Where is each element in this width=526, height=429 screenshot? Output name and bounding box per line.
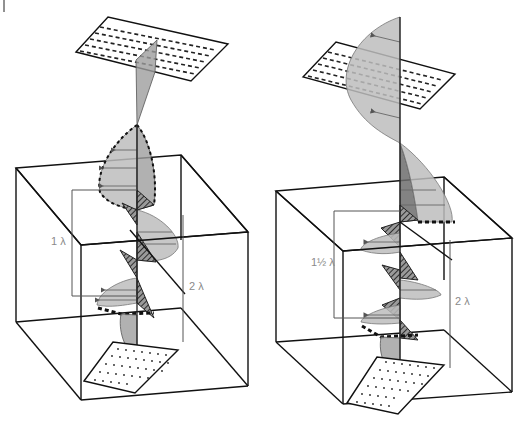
- right-inner-length-label: 1½ λ: [311, 257, 335, 268]
- right-panel: [276, 17, 512, 414]
- right-outgoing-wave: [346, 17, 400, 143]
- left-bottom-polarizer-plane: [84, 342, 178, 393]
- left-outer-length-label: 2 λ: [189, 281, 204, 292]
- left-inner-length-label: 1 λ: [51, 236, 66, 247]
- left-panel: [16, 17, 248, 400]
- left-cone-wave-back: [99, 125, 137, 210]
- right-bottom-polarizer-plane: [347, 357, 444, 414]
- right-helix-wave: [361, 222, 441, 340]
- diagram-canvas: [0, 0, 526, 429]
- right-outer-length-label: 2 λ: [455, 296, 470, 307]
